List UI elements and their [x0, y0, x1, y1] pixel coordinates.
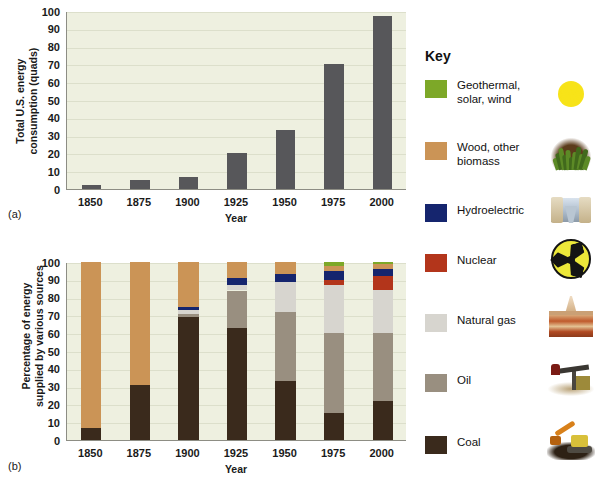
gridline [67, 119, 406, 120]
oil-pump-icon [545, 354, 597, 402]
segment-oil [178, 314, 198, 318]
panel-b-y-tick-90: 90 [24, 275, 60, 286]
key-swatch-oil-pump [425, 374, 447, 392]
gridline [67, 137, 406, 138]
panel-a-total-energy-chart: Total U.S. energy consumption (quads) Ye… [0, 0, 420, 240]
key-label-line1: Geothermal, [457, 79, 520, 91]
key-swatch-coal-dozer [425, 436, 447, 454]
panel-b-y-tick-80: 80 [24, 293, 60, 304]
panel-a-y-tick-50: 50 [24, 96, 60, 107]
panel-b-y-tick-10: 10 [24, 418, 60, 429]
bar-1950 [276, 130, 295, 189]
segment-coal [324, 413, 344, 440]
panel-a-y-tick-40: 40 [24, 113, 60, 124]
gridline [67, 65, 406, 66]
key-label-coal-dozer: Coal [457, 435, 552, 449]
panel-a-x-tick-1975: 1975 [309, 196, 358, 208]
segment-hydroelectric [275, 274, 295, 281]
segment-natural-gas [324, 285, 344, 333]
key-swatch-radiation [425, 254, 447, 272]
gas-rig-icon [545, 294, 597, 342]
key-label-dam: Hydroelectric [457, 203, 552, 217]
key-label-sun: Geothermal,solar, wind [457, 78, 552, 106]
panel-a-x-tick-1925: 1925 [212, 196, 261, 208]
panel-a-x-tick-1900: 1900 [163, 196, 212, 208]
gridline [67, 48, 406, 49]
key-label-line2: biomass [457, 155, 500, 167]
panel-b-y-tick-70: 70 [24, 311, 60, 322]
segment-geothermal-solar-wind [373, 262, 393, 264]
segment-wood-other-biomass [324, 266, 344, 271]
stacked-bar-1950 [275, 262, 295, 440]
sun-icon [545, 70, 597, 118]
segment-nuclear [373, 276, 393, 290]
key-label-line1: Hydroelectric [457, 204, 524, 216]
gridline [67, 83, 406, 84]
key-label-line1: Coal [457, 436, 481, 448]
coal-dozer-icon [545, 416, 597, 464]
panel-a-letter: (a) [8, 208, 21, 220]
segment-wood-other-biomass [227, 262, 247, 278]
segment-nuclear [324, 280, 344, 285]
panel-a-x-tick-1850: 1850 [66, 196, 115, 208]
panel-a-y-tick-90: 90 [24, 24, 60, 35]
key-swatch-gas-rig [425, 314, 447, 332]
panel-b-x-tick-1900: 1900 [163, 447, 212, 459]
panel-b-x-tick-1925: 1925 [212, 447, 261, 459]
bar-1850 [82, 185, 101, 189]
panel-b-y-tick-20: 20 [24, 400, 60, 411]
panel-b-y-tick-100: 100 [24, 258, 60, 269]
key-label-line1: Oil [457, 374, 471, 386]
segment-coal [373, 401, 393, 440]
bar-1875 [130, 180, 149, 189]
panel-a-y-tick-20: 20 [24, 149, 60, 160]
dam-icon [545, 186, 597, 234]
segment-wood-other-biomass [81, 262, 101, 428]
bar-2000 [373, 16, 392, 189]
segment-natural-gas [373, 290, 393, 333]
panel-b-y-tick-50: 50 [24, 347, 60, 358]
panel-a-y-tick-10: 10 [24, 167, 60, 178]
panel-b-x-tick-1850: 1850 [66, 447, 115, 459]
panel-b-y-tick-30: 30 [24, 382, 60, 393]
segment-hydroelectric [178, 307, 198, 311]
segment-wood-other-biomass [373, 264, 393, 269]
panel-b-y-tick-40: 40 [24, 364, 60, 375]
key-title: Key [425, 48, 451, 64]
gridline [67, 101, 406, 102]
panel-b-x-tick-2000: 2000 [357, 447, 406, 459]
bar-1900 [179, 177, 198, 189]
segment-hydroelectric [227, 278, 247, 285]
panel-a-y-tick-80: 80 [24, 42, 60, 53]
panel-a-y-tick-70: 70 [24, 60, 60, 71]
segment-wood-other-biomass [130, 262, 150, 385]
gridline [67, 30, 406, 31]
segment-hydroelectric [373, 269, 393, 276]
segment-geothermal-solar-wind [324, 262, 344, 266]
panel-a-y-tick-30: 30 [24, 131, 60, 142]
panel-b-x-tick-1875: 1875 [115, 447, 164, 459]
panel-a-x-tick-1875: 1875 [115, 196, 164, 208]
panel-b-y-tick-0: 0 [24, 436, 60, 447]
panel-b-plot-area [66, 263, 406, 441]
panel-b-y-tick-60: 60 [24, 329, 60, 340]
panel-b-x-tick-1975: 1975 [309, 447, 358, 459]
segment-natural-gas [227, 285, 247, 290]
stacked-bar-2000 [373, 262, 393, 440]
segment-coal [275, 381, 295, 440]
panel-a-y-tick-100: 100 [24, 7, 60, 18]
plant-biomass-icon [545, 130, 597, 178]
key-label-line1: Nuclear [457, 254, 497, 266]
chart-key: Key Geothermal,solar, windWood, otherbio… [417, 18, 597, 478]
segment-hydroelectric [324, 271, 344, 280]
key-swatch-plant-biomass [425, 142, 447, 160]
panel-a-x-tick-2000: 2000 [357, 196, 406, 208]
key-label-line1: Wood, other [457, 141, 519, 153]
key-label-line1: Natural gas [457, 314, 516, 326]
segment-natural-gas [178, 310, 198, 314]
panel-b-letter: (b) [8, 460, 21, 472]
panel-a-x-tick-1950: 1950 [260, 196, 309, 208]
stacked-bar-1925 [227, 262, 247, 440]
panel-a-y-tick-60: 60 [24, 78, 60, 89]
stacked-bar-1850 [81, 262, 101, 440]
